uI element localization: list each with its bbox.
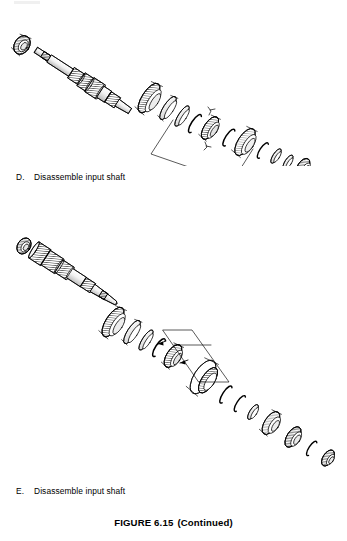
part-input-shaft — [27, 241, 122, 312]
document-page: D.Disassemble input shaft — [0, 0, 347, 541]
part-synchro-ring-2 — [172, 104, 192, 129]
part-washer-1 — [246, 403, 261, 421]
figure-caption-label: FIGURE 6.15 — [114, 517, 173, 528]
step-text-e: Disassemble input shaft — [34, 486, 125, 496]
part-washer-1 — [269, 147, 284, 165]
exploded-input-shaft-diagram-d — [0, 6, 347, 166]
part-blocker-ring-2 — [137, 328, 157, 352]
part-sliding-sleeve — [185, 356, 224, 400]
scan-artifact — [14, 1, 40, 4]
part-bearing-right-2 — [314, 165, 331, 166]
step-caption-d: D.Disassemble input shaft — [16, 172, 125, 182]
step-letter-e: E. — [16, 486, 34, 496]
step-caption-e: E.Disassemble input shaft — [16, 486, 125, 496]
figure-caption: FIGURE 6.15(Continued) — [0, 517, 347, 528]
part-synchronizer-hub — [161, 342, 187, 372]
part-snap-ring-1 — [150, 337, 165, 357]
part-snap-ring-2 — [221, 128, 236, 147]
part-bearing-end — [319, 448, 338, 469]
part-snap-ring-4 — [305, 440, 317, 456]
figure-caption-continued: (Continued) — [177, 517, 232, 528]
step-letter-d: D. — [16, 172, 34, 182]
part-snap-ring-2 — [218, 384, 233, 403]
part-synchronizer-hub — [198, 114, 224, 143]
part-snap-ring-1 — [186, 113, 202, 133]
part-snap-ring-3 — [232, 394, 246, 412]
part-washer-2 — [281, 154, 295, 166]
part-input-shaft — [31, 43, 134, 118]
part-flanged-bearing-2 — [282, 424, 306, 451]
exploded-input-shaft-diagram-e — [0, 222, 347, 480]
part-flanged-bearing-1 — [259, 409, 285, 439]
step-text-d: Disassemble input shaft — [34, 172, 125, 182]
part-bearing-right-1 — [293, 156, 314, 166]
part-snap-ring-3 — [255, 141, 268, 158]
part-bearing-left — [10, 32, 34, 58]
